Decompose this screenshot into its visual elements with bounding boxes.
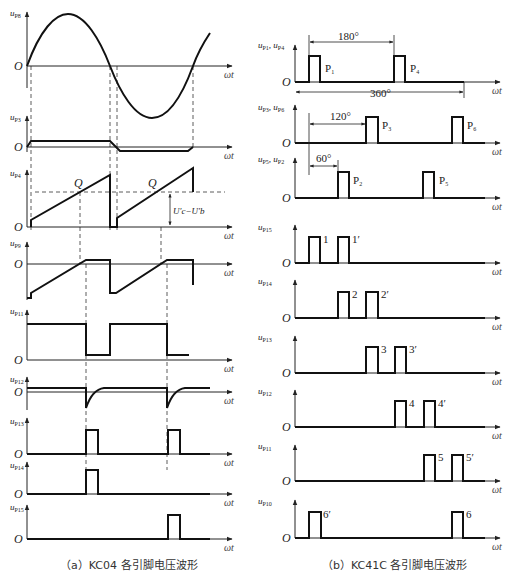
svg-text:180°: 180° <box>338 30 359 42</box>
svg-text:ωt: ωt <box>224 542 234 553</box>
trace-uP12: uP12 O ωt <box>10 374 234 410</box>
svg-text:3′: 3′ <box>409 343 417 355</box>
svg-text:6: 6 <box>466 508 472 520</box>
svg-text:ωt: ωt <box>224 267 234 278</box>
trace-uP11: uP11 O ωt <box>10 306 234 374</box>
svg-text:P2: P2 <box>353 174 362 187</box>
svg-text:uP3: uP3 <box>10 112 21 123</box>
trace-uP3: uP3 O ωt <box>10 112 234 161</box>
panel-a-caption: （a）KC04 各引脚电压波形 <box>60 558 198 572</box>
svg-text:ωt: ωt <box>492 85 502 96</box>
svg-text:O: O <box>14 257 23 271</box>
svg-text:P1: P1 <box>325 62 334 75</box>
svg-text:4′: 4′ <box>438 397 446 409</box>
svg-text:uP3, uP6: uP3, uP6 <box>258 102 284 113</box>
svg-text:ωt: ωt <box>492 201 502 212</box>
svg-text:ωt: ωt <box>492 430 502 441</box>
trace-uP8: uP8 O ωt <box>10 8 234 118</box>
svg-text:ωt: ωt <box>224 363 234 374</box>
svg-text:uP14: uP14 <box>258 276 272 287</box>
svg-text:6′: 6′ <box>323 508 331 520</box>
svg-text:O: O <box>282 256 291 270</box>
svg-text:uP14: uP14 <box>10 460 24 471</box>
svg-text:O: O <box>282 191 291 205</box>
svg-text:O: O <box>282 311 291 325</box>
svg-text:ωt: ωt <box>224 230 234 241</box>
svg-text:5′: 5′ <box>466 451 474 463</box>
svg-text:2: 2 <box>352 288 358 300</box>
svg-text:uP12: uP12 <box>258 386 272 397</box>
svg-text:uP13: uP13 <box>10 416 24 427</box>
trace-b-uP10: uP10 O ωt 6′ 6 <box>258 496 502 552</box>
trace-uP14: uP14 O ωt <box>10 460 234 508</box>
svg-text:120°: 120° <box>330 110 351 122</box>
svg-text:360°: 360° <box>370 87 391 99</box>
trace-b-uP13: uP13 O ωt 3 3′ <box>258 332 502 387</box>
svg-text:ωt: ωt <box>492 484 502 495</box>
svg-text:O: O <box>14 59 23 73</box>
svg-text:uP8: uP8 <box>10 8 21 19</box>
svg-text:1: 1 <box>323 233 329 245</box>
svg-text:ωt: ωt <box>224 69 234 80</box>
trace-b-uP15: uP15 O ωt 1 1′ <box>258 222 502 277</box>
svg-text:ωt: ωt <box>224 150 234 161</box>
trace-uP15: uP15 O ωt <box>10 502 234 553</box>
panel-b-caption: （b）KC41C 各引脚电压波形 <box>322 558 467 572</box>
trace-b-uP11: uP11 O ωt 5 5′ <box>258 441 502 495</box>
svg-text:O: O <box>282 366 291 380</box>
svg-text:O: O <box>14 532 23 546</box>
panel-a-guide-lines <box>31 66 225 470</box>
panel-a-kc04: uP8 O ωt uP3 O ωt uP4 O ωt Q Q U′c−U′b <box>10 8 234 572</box>
svg-text:O: O <box>14 353 23 367</box>
svg-text:O: O <box>14 140 23 154</box>
trace-uP9: uP9 O ωt <box>10 238 234 300</box>
svg-text:uP5, uP2: uP5, uP2 <box>258 154 284 165</box>
svg-text:O: O <box>14 447 23 461</box>
svg-text:O: O <box>14 220 23 234</box>
svg-text:O: O <box>282 474 291 488</box>
svg-text:uP11: uP11 <box>10 306 24 317</box>
svg-text:ωt: ωt <box>492 541 502 552</box>
svg-text:ωt: ωt <box>492 321 502 332</box>
panel-b-kc41c: uP1, uP4 O ωt P1 P4 180° 360° uP3, uP6 O… <box>258 30 502 572</box>
svg-text:P3: P3 <box>382 119 391 132</box>
svg-text:O: O <box>282 136 291 150</box>
svg-text:ωt: ωt <box>224 497 234 508</box>
svg-text:ωt: ωt <box>224 457 234 468</box>
svg-text:O: O <box>14 385 23 399</box>
trace-uP4: uP4 O ωt Q Q U′c−U′b <box>10 168 234 241</box>
svg-text:uP10: uP10 <box>258 496 272 507</box>
svg-text:ωt: ωt <box>224 395 234 406</box>
svg-text:ωt: ωt <box>492 376 502 387</box>
svg-text:P5: P5 <box>439 174 448 187</box>
svg-text:4: 4 <box>409 397 415 409</box>
svg-text:P6: P6 <box>467 119 476 132</box>
svg-text:uP12: uP12 <box>10 374 24 385</box>
svg-text:O: O <box>282 531 291 545</box>
svg-text:O: O <box>14 487 23 501</box>
svg-text:P4: P4 <box>410 62 419 75</box>
svg-text:ωt: ωt <box>492 266 502 277</box>
svg-text:Q: Q <box>148 176 157 190</box>
waveform-diagram: uP8 O ωt uP3 O ωt uP4 O ωt Q Q U′c−U′b <box>0 0 506 576</box>
svg-text:5: 5 <box>438 451 444 463</box>
svg-text:1′: 1′ <box>352 233 360 245</box>
trace-b-uP14: uP14 O ωt 2 2′ <box>258 276 502 332</box>
svg-text:uP15: uP15 <box>10 502 24 513</box>
svg-text:uP13: uP13 <box>258 332 272 343</box>
svg-text:3: 3 <box>381 343 387 355</box>
svg-text:O: O <box>282 420 291 434</box>
svg-text:Q: Q <box>74 176 83 190</box>
trace-uP1-uP4: uP1, uP4 O ωt P1 P4 180° 360° <box>258 30 502 99</box>
svg-text:U′c−U′b: U′c−U′b <box>173 206 205 216</box>
trace-uP13: uP13 O ωt <box>10 416 234 468</box>
svg-text:uP9: uP9 <box>10 238 21 249</box>
svg-text:uP1, uP4: uP1, uP4 <box>258 40 284 51</box>
svg-text:60°: 60° <box>316 152 331 164</box>
svg-text:uP4: uP4 <box>10 168 21 179</box>
svg-text:2′: 2′ <box>381 288 389 300</box>
svg-text:uP15: uP15 <box>258 222 272 233</box>
svg-text:ωt: ωt <box>492 146 502 157</box>
trace-b-uP12: uP12 O ωt 4 4′ <box>258 386 502 441</box>
svg-text:O: O <box>282 75 291 89</box>
